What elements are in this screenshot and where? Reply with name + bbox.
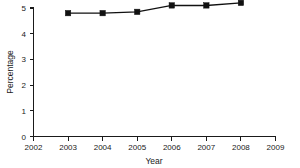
data-point-marker — [65, 10, 70, 15]
x-tick-label-2003: 2003 — [59, 143, 77, 152]
x-tick-label-2008: 2008 — [232, 143, 250, 152]
data-point-marker — [135, 9, 140, 14]
data-point-marker — [238, 0, 243, 5]
y-tick-label-2: 2 — [22, 81, 27, 90]
y-tick-label-1: 1 — [22, 107, 27, 116]
y-tick-label-4: 4 — [22, 30, 27, 39]
data-point-marker — [169, 3, 174, 8]
chart-background — [0, 0, 300, 168]
x-tick-label-2007: 2007 — [197, 143, 215, 152]
x-axis-title: Year — [145, 156, 162, 166]
y-tick-label-5: 5 — [22, 4, 27, 13]
x-tick-label-2005: 2005 — [128, 143, 146, 152]
x-tick-label-2006: 2006 — [163, 143, 181, 152]
x-tick-label-2004: 2004 — [94, 143, 112, 152]
y-tick-label-3: 3 — [22, 55, 27, 64]
y-tick-label-0: 0 — [22, 133, 27, 142]
x-tick-label-2002: 2002 — [25, 143, 43, 152]
chart-canvas: 0 1 2 3 4 5 2002 2003 2004 2005 2006 200… — [0, 0, 300, 168]
y-axis-title: Percentage — [5, 50, 15, 94]
data-point-marker — [204, 3, 209, 8]
data-point-marker — [100, 10, 105, 15]
x-tick-label-2009: 2009 — [267, 143, 285, 152]
line-chart: 0 1 2 3 4 5 2002 2003 2004 2005 2006 200… — [0, 0, 300, 168]
